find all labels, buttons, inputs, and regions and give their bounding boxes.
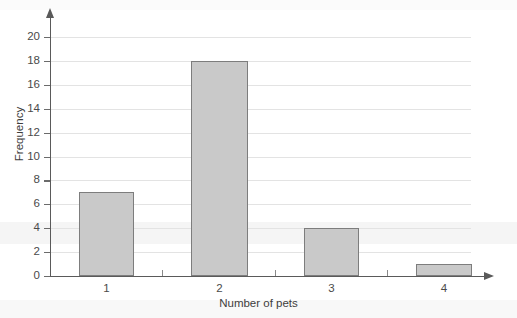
y-axis-line [50,16,51,277]
x-axis-title: Number of pets [0,297,517,309]
gridline [51,37,471,38]
y-tick-label: 20 [16,31,40,43]
bar [79,192,134,276]
gridline [51,133,471,134]
gridline [51,61,471,62]
bar [191,61,248,276]
y-axis-title: Frequency [13,79,25,189]
x-tick-label: 1 [87,283,127,295]
x-axis-line [50,276,490,277]
y-axis-arrow-icon [46,8,54,18]
y-tick-label: 2 [16,246,40,258]
bar [416,264,472,276]
gridline [51,157,471,158]
bar [304,228,359,276]
x-tick-label: 3 [312,283,352,295]
x-tick-label: 4 [424,283,464,295]
y-tick-label: 18 [16,55,40,67]
y-tick-label: 6 [16,198,40,210]
gridline [51,109,471,110]
gridline [51,85,471,86]
x-axis-arrow-icon [484,272,494,280]
y-tick-label: 4 [16,222,40,234]
y-tick-label: 0 [16,270,40,282]
x-tick-label: 2 [200,283,240,295]
chart-page: 02468101214161820 1234 Frequency Number … [0,0,517,318]
gridline [51,180,471,181]
bar-chart: 02468101214161820 1234 Frequency Number … [0,0,517,318]
